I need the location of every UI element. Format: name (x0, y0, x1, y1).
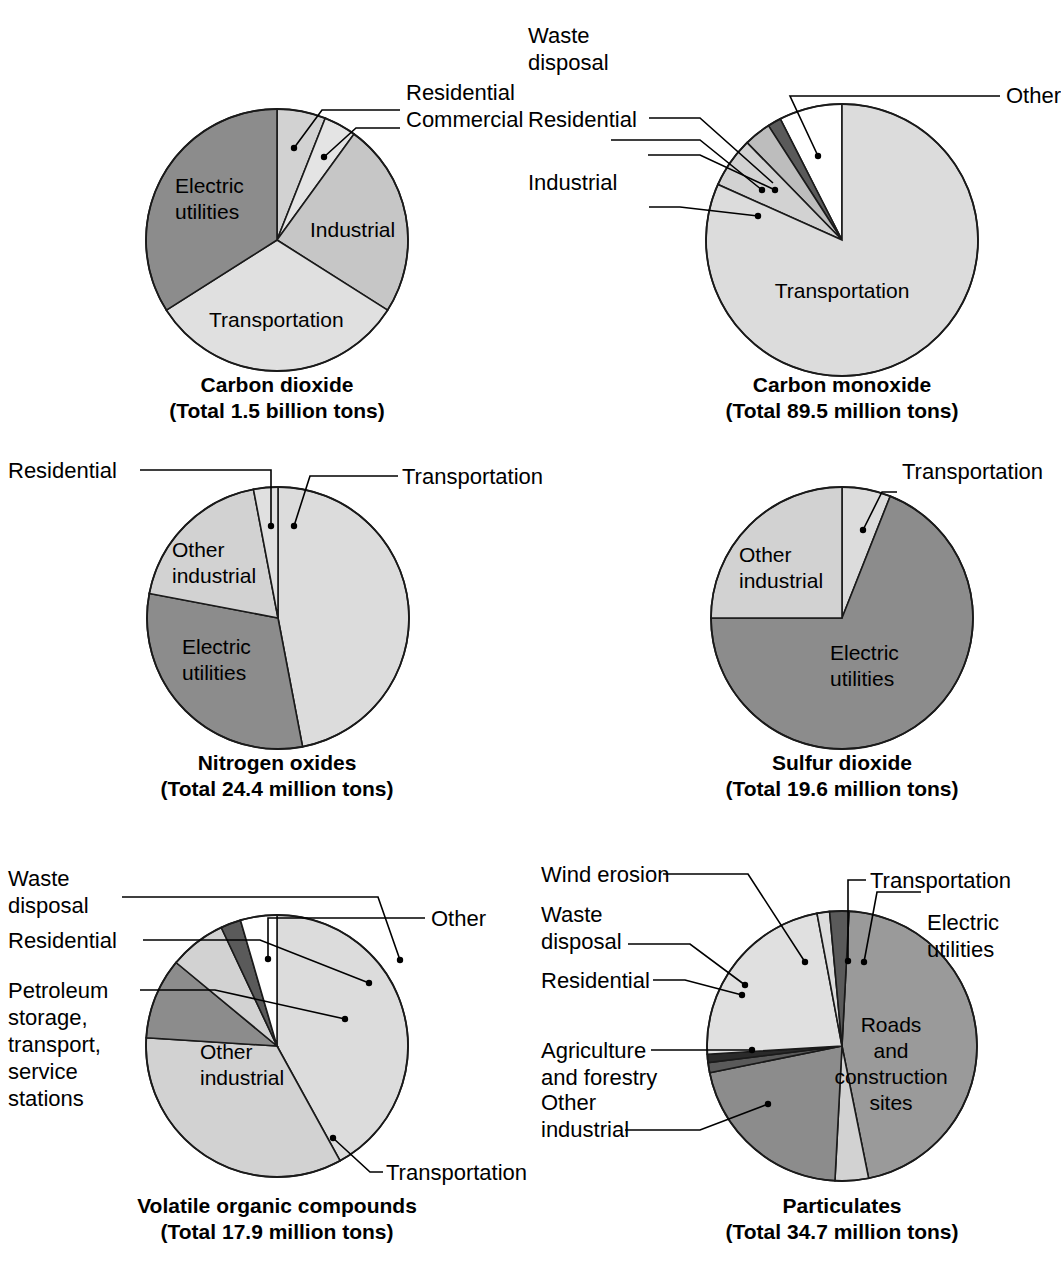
label-petroleum-voc-l4: service (8, 1059, 78, 1084)
leader-dot-industrial-co (755, 213, 761, 219)
panel-nitrogen-oxides: Residential Transportation Other industr… (8, 458, 543, 800)
label-residential-part: Residential (541, 968, 650, 993)
label-other-industrial-voc-l1: Other (200, 1040, 253, 1063)
label-electric-utilities-part-l1: Electric (927, 910, 999, 935)
label-waste-disposal-co-l2: disposal (528, 50, 609, 75)
label-electric-utilities-part-l2: utilities (927, 937, 994, 962)
label-waste-disposal-voc-l2: disposal (8, 893, 89, 918)
label-agriculture-part-l1: Agriculture (541, 1038, 646, 1063)
leader-dot-other-industrial-part (765, 1101, 771, 1107)
subtitle-particulates: (Total 34.7 million tons) (726, 1220, 959, 1243)
panel-sulfur-dioxide: Transportation Other industrial Electric… (711, 459, 1043, 800)
pie-nitrogen-oxides (147, 487, 409, 749)
label-other-voc: Other (431, 906, 486, 931)
title-carbon-monoxide: Carbon monoxide (753, 373, 932, 396)
subtitle-carbon-monoxide: (Total 89.5 million tons) (726, 399, 959, 422)
title-particulates: Particulates (782, 1194, 901, 1217)
emissions-pie-chart-figure: Residential Commercial Electric utilitie… (0, 0, 1061, 1274)
pie-volatile-organic-compounds (146, 915, 408, 1177)
label-other-industrial-part-l2: industrial (541, 1117, 629, 1142)
label-transportation-so2: Transportation (902, 459, 1043, 484)
label-transportation-voc: Transportation (386, 1160, 527, 1185)
label-electric-utilities-co2-l1: Electric (175, 174, 244, 197)
leader-dot-residential-nox (268, 523, 274, 529)
label-wind-erosion-part: Wind erosion (541, 862, 669, 887)
label-transportation-nox: Transportation (402, 464, 543, 489)
leader-dot-transportation-so2 (860, 527, 866, 533)
leader-dot-waste-disposal-co (759, 187, 765, 193)
label-electric-utilities-so2-l1: Electric (830, 641, 899, 664)
label-transportation-part: Transportation (870, 868, 1011, 893)
label-petroleum-voc-l5: stations (8, 1086, 84, 1111)
label-waste-disposal-part-l2: disposal (541, 929, 622, 954)
label-roads-part-l2: and (873, 1039, 908, 1062)
label-other-co: Other (1006, 83, 1061, 108)
leader-dot-other-voc (265, 956, 271, 962)
label-petroleum-voc-l3: transport, (8, 1032, 101, 1057)
label-industrial-co: Industrial (528, 170, 617, 195)
panel-carbon-monoxide: Waste disposal Residential Industrial Ot… (528, 23, 1061, 422)
label-other-industrial-nox-l1: Other (172, 538, 225, 561)
panel-carbon-dioxide: Residential Commercial Electric utilitie… (146, 80, 523, 422)
label-electric-utilities-co2-l2: utilities (175, 200, 239, 223)
subtitle-carbon-dioxide: (Total 1.5 billion tons) (169, 399, 384, 422)
subtitle-sulfur-dioxide: (Total 19.6 million tons) (726, 777, 959, 800)
label-waste-disposal-co-l1: Waste (528, 23, 590, 48)
label-other-industrial-nox-l2: industrial (172, 564, 256, 587)
leader-dot-waste-disposal-part (742, 982, 748, 988)
leader-dot-transportation-voc (330, 1135, 336, 1141)
leader-dot-commercial-co2 (321, 154, 327, 160)
pie-sulfur-dioxide (711, 487, 973, 749)
leader-dot-residential-co2 (291, 145, 297, 151)
leader-dot-other-co (815, 153, 821, 159)
leader-dot-transportation-part (845, 958, 851, 964)
leader-dot-wind-erosion-part (802, 959, 808, 965)
leader-dot-transportation-nox (291, 523, 297, 529)
label-electric-utilities-nox-l1: Electric (182, 635, 251, 658)
leader-dot-residential-part (739, 992, 745, 998)
label-waste-disposal-voc-l1: Waste (8, 866, 70, 891)
pie-carbon-monoxide (706, 104, 978, 376)
label-petroleum-voc-l2: storage, (8, 1005, 88, 1030)
panel-particulates: Wind erosion Waste disposal Residential … (541, 862, 1011, 1243)
label-electric-utilities-nox-l2: utilities (182, 661, 246, 684)
label-commercial-co2: Commercial (406, 107, 523, 132)
label-transportation-co: Transportation (775, 279, 910, 302)
label-residential-nox: Residential (8, 458, 117, 483)
label-industrial-co2: Industrial (310, 218, 395, 241)
label-roads-part-l1: Roads (861, 1013, 922, 1036)
title-volatile-organic-compounds: Volatile organic compounds (137, 1194, 417, 1217)
label-other-industrial-voc-l2: industrial (200, 1066, 284, 1089)
label-residential-voc: Residential (8, 928, 117, 953)
title-nitrogen-oxides: Nitrogen oxides (198, 751, 357, 774)
label-roads-part-l4: sites (869, 1091, 912, 1114)
leader-dot-petroleum-voc (342, 1016, 348, 1022)
panel-volatile-organic-compounds: Waste disposal Residential Petroleum sto… (8, 866, 527, 1243)
label-waste-disposal-part-l1: Waste (541, 902, 603, 927)
label-petroleum-voc-l1: Petroleum (8, 978, 108, 1003)
label-roads-part-l3: construction (834, 1065, 947, 1088)
subtitle-nitrogen-oxides: (Total 24.4 million tons) (161, 777, 394, 800)
subtitle-volatile-organic-compounds: (Total 17.9 million tons) (161, 1220, 394, 1243)
label-other-industrial-so2-l1: Other (739, 543, 792, 566)
label-other-industrial-so2-l2: industrial (739, 569, 823, 592)
title-sulfur-dioxide: Sulfur dioxide (772, 751, 912, 774)
label-residential-co: Residential (528, 107, 637, 132)
label-electric-utilities-so2-l2: utilities (830, 667, 894, 690)
leader-dot-waste-disposal-voc (397, 957, 403, 963)
leader-dot-residential-co (772, 187, 778, 193)
label-transportation-co2: Transportation (209, 308, 344, 331)
leader-dot-agriculture-part (749, 1047, 755, 1053)
pie-slice (278, 487, 409, 747)
leader-dot-residential-voc (366, 980, 372, 986)
title-carbon-dioxide: Carbon dioxide (201, 373, 354, 396)
label-other-industrial-part-l1: Other (541, 1090, 596, 1115)
label-agriculture-part-l2: and forestry (541, 1065, 657, 1090)
label-residential-co2: Residential (406, 80, 515, 105)
leader-dot-electric-utilities-part (861, 959, 867, 965)
